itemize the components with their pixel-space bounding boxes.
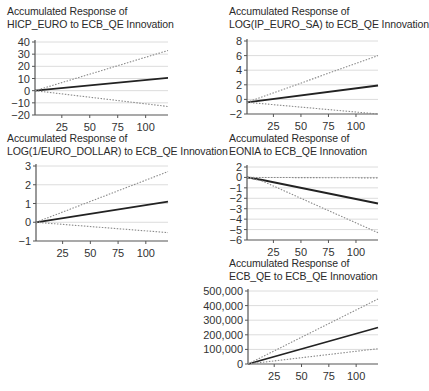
x-tick-label: 25 bbox=[56, 121, 68, 133]
x-tick-label: 100 bbox=[347, 120, 365, 132]
y-tick-label: 0 bbox=[25, 216, 31, 228]
y-tick-label: 1 bbox=[25, 198, 31, 210]
x-tick-label: 75 bbox=[322, 246, 334, 258]
y-tick-label: 4 bbox=[236, 64, 242, 76]
x-tick-label: 75 bbox=[323, 370, 335, 382]
y-tick-label: −1 bbox=[18, 235, 31, 247]
x-tick-label: 100 bbox=[136, 121, 154, 133]
confidence-band-line bbox=[248, 299, 378, 364]
y-tick-label: 10 bbox=[18, 73, 30, 85]
x-tick-label: 25 bbox=[267, 120, 279, 132]
y-tick-label: 300,000 bbox=[203, 314, 243, 326]
confidence-band-line bbox=[247, 56, 378, 103]
x-tick-label: 50 bbox=[84, 247, 96, 259]
response-line bbox=[35, 78, 168, 91]
y-tick-label: 400,000 bbox=[203, 300, 243, 312]
confidence-band-line bbox=[247, 177, 378, 232]
y-tick-label: −6 bbox=[229, 234, 242, 246]
x-tick-label: 75 bbox=[112, 247, 124, 259]
y-tick-label: 500,000 bbox=[203, 285, 243, 297]
y-tick-label: 2 bbox=[25, 179, 31, 191]
y-tick-label: 40 bbox=[18, 36, 30, 48]
y-tick-label: 200,000 bbox=[203, 329, 243, 341]
x-tick-label: 50 bbox=[295, 246, 307, 258]
confidence-band-line bbox=[248, 349, 378, 364]
y-tick-label: −20 bbox=[11, 109, 30, 121]
response-line bbox=[36, 202, 168, 223]
x-tick-label: 25 bbox=[56, 247, 68, 259]
y-tick-label: −2 bbox=[229, 108, 242, 120]
confidence-band-line bbox=[36, 222, 168, 232]
chart-eonia: 20−1−2−3−4−5−6255075100 bbox=[229, 161, 378, 258]
confidence-band-line bbox=[35, 91, 168, 107]
y-tick-label: 0 bbox=[237, 358, 243, 370]
chart-hicp: 403020100−10−20255075100 bbox=[11, 36, 168, 133]
y-tick-label: 0 bbox=[236, 93, 242, 105]
x-tick-label: 75 bbox=[112, 121, 124, 133]
y-tick-label: 2 bbox=[236, 79, 242, 91]
x-tick-label: 100 bbox=[137, 247, 155, 259]
response-line bbox=[247, 177, 378, 203]
y-tick-label: 3 bbox=[25, 160, 31, 172]
x-tick-label: 75 bbox=[322, 120, 334, 132]
x-tick-label: 100 bbox=[347, 246, 365, 258]
y-tick-label: 20 bbox=[18, 60, 30, 72]
chart-ip: 86420−2255075100 bbox=[229, 35, 378, 132]
y-tick-label: 100,000 bbox=[203, 343, 243, 355]
x-tick-label: 50 bbox=[295, 370, 307, 382]
y-tick-label: 0 bbox=[24, 85, 30, 97]
y-tick-label: 30 bbox=[18, 48, 30, 60]
y-tick-label: −10 bbox=[11, 97, 30, 109]
y-tick-label: 6 bbox=[236, 50, 242, 62]
confidence-band-line bbox=[247, 102, 378, 114]
response-line bbox=[248, 328, 378, 365]
x-tick-label: 50 bbox=[84, 121, 96, 133]
x-tick-label: 25 bbox=[267, 246, 279, 258]
confidence-band-line bbox=[36, 172, 168, 223]
x-tick-label: 100 bbox=[347, 370, 365, 382]
chart-ecbqe: 500,000400,000300,000200,000100,00002550… bbox=[203, 285, 378, 382]
x-tick-label: 50 bbox=[295, 120, 307, 132]
x-tick-label: 25 bbox=[268, 370, 280, 382]
chart-dollar: 3210−1255075100 bbox=[18, 160, 168, 259]
y-tick-label: 8 bbox=[236, 35, 242, 47]
